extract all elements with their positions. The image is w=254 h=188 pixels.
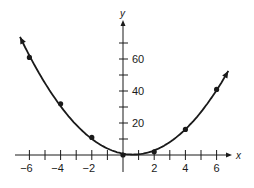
y-axis-label: y (119, 8, 126, 19)
y-tick-label: 20 (132, 117, 144, 129)
x-tick-label: −4 (51, 162, 64, 174)
y-axis-arrow-icon (121, 20, 126, 26)
x-axis-arrow-icon (226, 153, 232, 158)
data-point (120, 152, 125, 157)
data-point (89, 135, 94, 140)
parabola-curve (20, 37, 228, 155)
y-tick-label: 60 (132, 53, 144, 65)
y-tick-label: 40 (132, 85, 144, 97)
x-tick-label: −2 (83, 162, 96, 174)
x-tick-label: 2 (151, 162, 157, 174)
data-point (58, 101, 63, 106)
data-point (27, 55, 32, 60)
x-tick-label: 4 (182, 162, 188, 174)
data-point (152, 149, 157, 154)
x-tick-label: 6 (214, 162, 220, 174)
tick-labels: −6−4−2246204060 (20, 53, 220, 174)
data-point (214, 87, 219, 92)
parabola-chart: −6−4−2246204060 x y (0, 0, 254, 188)
x-axis-label: x (235, 150, 242, 161)
data-point (183, 127, 188, 132)
x-tick-label: −6 (20, 162, 33, 174)
